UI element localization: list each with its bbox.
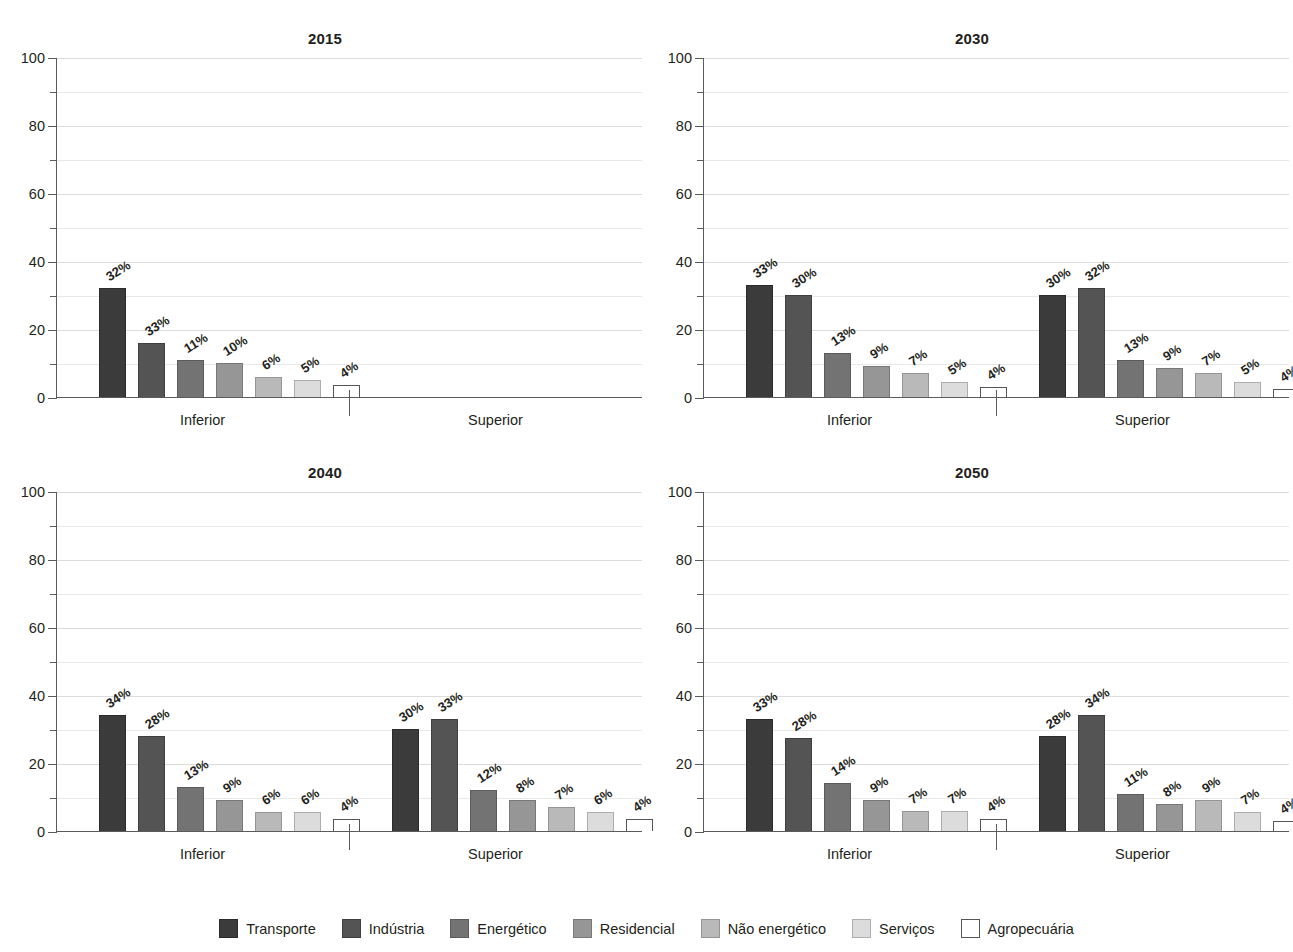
- x-axis-group-label: Inferior: [827, 846, 872, 862]
- bar-value-label: 10%: [220, 332, 250, 359]
- y-axis-label: 100: [21, 50, 45, 66]
- bar: [587, 812, 614, 831]
- legend-swatch-icon: [342, 919, 361, 938]
- chart-title: 2050: [655, 464, 1289, 481]
- bar: [785, 295, 812, 397]
- y-axis-label: 40: [676, 254, 692, 270]
- legend-item[interactable]: Não energético: [701, 919, 826, 938]
- chart-title: 2040: [8, 464, 642, 481]
- chart-title: 2015: [8, 30, 642, 47]
- legend-item[interactable]: Serviços: [852, 919, 935, 938]
- bar: [216, 800, 243, 831]
- y-tick: [695, 330, 704, 331]
- y-axis-label: 80: [29, 118, 45, 134]
- bar-value-label: 9%: [1199, 774, 1223, 797]
- bar-group-item: 30%: [1039, 57, 1066, 397]
- legend-label: Agropecuária: [988, 921, 1074, 937]
- bar-value-label: 28%: [789, 707, 819, 734]
- legend-item[interactable]: Energético: [450, 919, 546, 938]
- bar: [1273, 389, 1293, 398]
- bar-value-label: 6%: [259, 350, 283, 373]
- bar: [99, 288, 126, 397]
- y-axis-label: 80: [676, 552, 692, 568]
- bar-value-label: 5%: [945, 355, 969, 378]
- y-tick: [48, 398, 57, 399]
- y-tick: [695, 398, 704, 399]
- group-separator: [996, 390, 997, 416]
- y-axis-label: 40: [29, 254, 45, 270]
- y-axis-label: 60: [29, 620, 45, 636]
- bar: [294, 380, 321, 397]
- bar-group-item: 34%: [99, 491, 126, 831]
- y-axis-label: 20: [676, 756, 692, 772]
- bar-value-label: 4%: [337, 792, 361, 815]
- bar-group-item: 7%: [902, 57, 929, 397]
- bar-value-label: 13%: [1121, 329, 1151, 356]
- bar-value-label: 9%: [867, 340, 891, 363]
- bar: [138, 343, 165, 397]
- x-axis-group-label: Inferior: [180, 846, 225, 862]
- x-axis-group-label: Superior: [1115, 846, 1170, 862]
- bar: [902, 373, 929, 397]
- y-tick: [48, 560, 57, 561]
- bar: [1234, 382, 1261, 397]
- bar: [902, 811, 929, 831]
- bar: [431, 719, 458, 831]
- bar-value-label: 11%: [1121, 763, 1150, 789]
- legend-label: Não energético: [728, 921, 826, 937]
- y-tick-minor: [50, 160, 57, 161]
- bar-value-label: 9%: [1160, 341, 1184, 364]
- chart-panel-2030: 203002040608010033%30%13%9%7%5%4%30%32%1…: [655, 30, 1289, 450]
- y-axis-label: 0: [37, 390, 45, 406]
- group-separator: [349, 390, 350, 416]
- y-tick-minor: [50, 526, 57, 527]
- bar-value-label: 33%: [750, 254, 780, 281]
- bar-group-item: 4%: [980, 57, 1007, 397]
- bar-value-label: 28%: [1043, 705, 1073, 732]
- bar: [1234, 812, 1261, 831]
- y-tick: [695, 764, 704, 765]
- bar: [548, 807, 575, 831]
- bar-value-label: 33%: [435, 688, 465, 715]
- chart-panel-2050: 205002040608010033%28%14%9%7%7%4%28%34%1…: [655, 464, 1289, 884]
- plot-area: 02040608010032%33%11%10%6%5%4%: [56, 58, 642, 398]
- bar-value-label: 7%: [552, 781, 576, 804]
- x-axis-group-label: Superior: [468, 846, 523, 862]
- legend-item[interactable]: Residencial: [573, 919, 675, 938]
- bar-group-item: 14%: [824, 491, 851, 831]
- y-tick: [48, 126, 57, 127]
- bar: [1273, 821, 1293, 831]
- y-axis-label: 100: [21, 484, 45, 500]
- bar-value-label: 6%: [591, 786, 615, 809]
- chart-legend: TransporteIndústriaEnergéticoResidencial…: [0, 919, 1293, 938]
- y-axis-label: 20: [29, 322, 45, 338]
- bar-group-item: 30%: [785, 57, 812, 397]
- bars-layer: 34%28%13%9%6%6%4%30%33%12%8%7%6%4%: [57, 492, 642, 831]
- bar: [333, 819, 360, 831]
- y-tick-minor: [50, 296, 57, 297]
- bar: [294, 812, 321, 831]
- legend-item[interactable]: Indústria: [342, 919, 425, 938]
- bar-value-label: 34%: [103, 685, 133, 712]
- bar-group-item: 28%: [138, 491, 165, 831]
- y-tick: [695, 492, 704, 493]
- bar-value-label: 8%: [513, 774, 537, 797]
- y-axis-label: 100: [668, 50, 692, 66]
- y-tick-minor: [50, 594, 57, 595]
- bar-value-label: 13%: [828, 322, 858, 349]
- bar-group-item: 11%: [1117, 491, 1144, 831]
- bar-group-item: 9%: [216, 491, 243, 831]
- legend-item[interactable]: Transporte: [219, 919, 316, 938]
- legend-label: Indústria: [369, 921, 425, 937]
- bar-group-item: 4%: [333, 491, 360, 831]
- y-axis-label: 60: [676, 186, 692, 202]
- bar-group-item: 8%: [1156, 491, 1183, 831]
- bar-value-label: 9%: [867, 774, 891, 797]
- bar: [941, 811, 968, 831]
- bar-group-item: 5%: [941, 57, 968, 397]
- y-tick-minor: [697, 364, 704, 365]
- bar-group-item: 9%: [1195, 491, 1222, 831]
- bar-value-label: 4%: [984, 360, 1008, 383]
- y-tick: [695, 832, 704, 833]
- legend-item[interactable]: Agropecuária: [961, 919, 1074, 938]
